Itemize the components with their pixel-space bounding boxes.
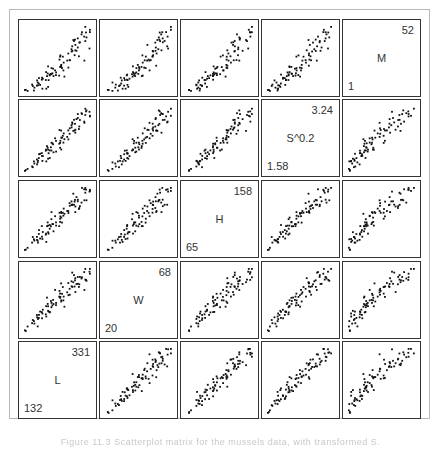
scatter-panel-r1-c2 bbox=[180, 99, 259, 177]
scatter-points bbox=[19, 262, 95, 337]
scatter-points bbox=[262, 262, 338, 337]
diagonal-panel-h: H15865 bbox=[180, 180, 259, 258]
variable-min: 132 bbox=[24, 402, 42, 414]
scatter-points bbox=[343, 181, 419, 256]
scatter-panel-r4-c2 bbox=[180, 341, 259, 419]
figure-caption: Figure 11.3 Scatterplot matrix for the m… bbox=[0, 437, 441, 447]
variable-min: 1.58 bbox=[267, 160, 288, 172]
scatter-panel-r1-c4 bbox=[342, 99, 421, 177]
variable-min: 20 bbox=[105, 322, 117, 334]
scatter-points bbox=[181, 262, 257, 337]
scatter-points bbox=[181, 20, 257, 95]
variable-name: M bbox=[343, 52, 420, 64]
scatter-panel-r0-c2 bbox=[180, 19, 259, 97]
scatter-points bbox=[181, 342, 257, 417]
scatter-panel-r2-c0 bbox=[18, 180, 97, 258]
scatter-panel-r0-c1 bbox=[99, 19, 178, 97]
scatter-panel-r2-c4 bbox=[342, 180, 421, 258]
scatter-points bbox=[19, 181, 95, 256]
scatter-panel-r2-c1 bbox=[99, 180, 178, 258]
scatter-panel-r4-c3 bbox=[261, 341, 340, 419]
scatter-panel-r0-c0 bbox=[18, 19, 97, 97]
scatter-points bbox=[181, 100, 257, 175]
scatter-panel-r1-c1 bbox=[99, 99, 178, 177]
variable-max: 52 bbox=[402, 24, 414, 36]
scatter-panel-r0-c3 bbox=[261, 19, 340, 97]
scatter-panel-r1-c0 bbox=[18, 99, 97, 177]
variable-max: 158 bbox=[234, 185, 252, 197]
diagonal-panel-s02: S^0.23.241.58 bbox=[261, 99, 340, 177]
scatter-points bbox=[262, 342, 338, 417]
diagonal-panel-m: M521 bbox=[342, 19, 421, 97]
variable-max: 331 bbox=[72, 346, 90, 358]
scatter-panel-r4-c4 bbox=[342, 341, 421, 419]
scatter-points bbox=[343, 100, 419, 175]
scatter-panel-r4-c1 bbox=[99, 341, 178, 419]
variable-min: 65 bbox=[186, 241, 198, 253]
scatter-points bbox=[100, 100, 176, 175]
scatter-points bbox=[100, 181, 176, 256]
scatter-points bbox=[343, 262, 419, 337]
scatter-panel-r3-c0 bbox=[18, 261, 97, 339]
variable-name: S^0.2 bbox=[262, 132, 339, 144]
variable-name: W bbox=[100, 294, 177, 306]
diagonal-panel-l: L331132 bbox=[18, 341, 97, 419]
scatter-points bbox=[19, 20, 95, 95]
scatter-points bbox=[262, 181, 338, 256]
variable-min: 1 bbox=[348, 80, 354, 92]
variable-max: 68 bbox=[159, 266, 171, 278]
scatter-points bbox=[19, 100, 95, 175]
scatter-points bbox=[100, 20, 176, 95]
scatter-panel-r2-c3 bbox=[261, 180, 340, 258]
scatter-panel-r3-c3 bbox=[261, 261, 340, 339]
variable-name: L bbox=[19, 374, 96, 386]
scatter-points bbox=[343, 342, 419, 417]
scatter-panel-r3-c2 bbox=[180, 261, 259, 339]
scatter-panel-r3-c4 bbox=[342, 261, 421, 339]
variable-name: H bbox=[181, 213, 258, 225]
scatter-points bbox=[262, 20, 338, 95]
scatter-points bbox=[100, 342, 176, 417]
diagonal-panel-w: W6820 bbox=[99, 261, 178, 339]
variable-max: 3.24 bbox=[312, 104, 333, 116]
